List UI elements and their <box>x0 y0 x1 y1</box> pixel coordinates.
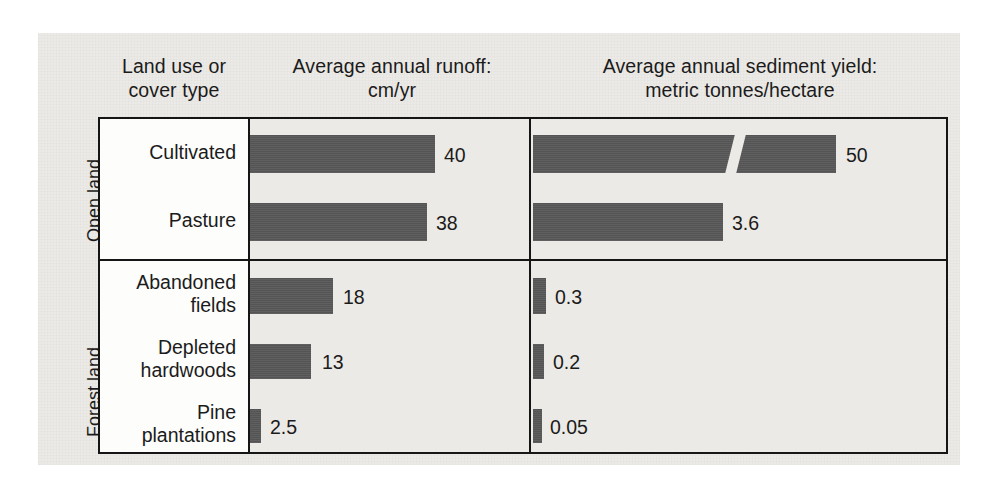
column-header-runoff-line1: Average annual runoff: <box>293 55 492 77</box>
row-label-line2: hardwoods <box>141 359 236 381</box>
column-header-sediment-line1: Average annual sediment yield: <box>603 55 878 77</box>
table-row: Pineplantations 2.5 0.05 <box>100 392 946 454</box>
column-header-sediment-line2: metric tonnes/hectare <box>645 79 835 101</box>
table-row: Cultivated 40 50 <box>100 119 946 189</box>
column-header-land-use-line1: Land use or <box>122 55 226 77</box>
column-header-sediment: Average annual sediment yield:metric ton… <box>530 54 950 102</box>
row-label-line2: plantations <box>142 424 236 446</box>
bar-value-runoff-pine-plantations: 2.5 <box>270 417 297 437</box>
column-header-runoff-line2: cm/yr <box>368 79 416 101</box>
bar-sediment-cultivated <box>533 135 836 173</box>
row-label-line1: Pine <box>197 401 236 423</box>
row-label-cultivated: Cultivated <box>100 141 236 164</box>
bar-value-runoff-cultivated: 40 <box>444 145 466 165</box>
chart-table-frame: Cultivated 40 50 Pasture 38 3.6 Abandone… <box>98 117 948 454</box>
bar-sediment-pine-plantations <box>533 409 542 443</box>
row-label-line1: Abandoned <box>136 271 236 293</box>
bar-runoff-abandoned-fields <box>250 278 333 314</box>
row-label-pine-plantations: Pineplantations <box>100 401 236 447</box>
bar-value-runoff-pasture: 38 <box>436 213 458 233</box>
bar-value-sediment-pine-plantations: 0.05 <box>550 417 588 437</box>
bar-value-runoff-abandoned-fields: 18 <box>343 287 365 307</box>
bar-sediment-abandoned-fields <box>533 278 546 314</box>
bar-runoff-pasture <box>250 203 427 241</box>
row-label-text: Cultivated <box>149 141 236 163</box>
table-row: Depletedhardwoods 13 0.2 <box>100 328 946 392</box>
bar-sediment-pasture <box>533 203 723 241</box>
column-header-land-use-line2: cover type <box>129 79 220 101</box>
table-row: Abandonedfields 18 0.3 <box>100 261 946 328</box>
column-header-runoff: Average annual runoff:cm/yr <box>252 54 532 102</box>
figure-root: Land use orcover type Average annual run… <box>0 0 998 493</box>
row-label-abandoned-fields: Abandonedfields <box>100 271 236 317</box>
row-label-depleted-hardwoods: Depletedhardwoods <box>100 336 236 382</box>
bar-runoff-depleted-hardwoods <box>250 344 311 379</box>
bar-value-sediment-cultivated: 50 <box>846 145 868 165</box>
bar-value-sediment-depleted-hardwoods: 0.2 <box>553 352 580 372</box>
bar-sediment-depleted-hardwoods <box>533 344 544 379</box>
bar-runoff-pine-plantations <box>250 409 261 443</box>
bar-value-runoff-depleted-hardwoods: 13 <box>322 352 344 372</box>
row-label-line2: fields <box>190 294 236 316</box>
row-label-text: Pasture <box>169 209 236 231</box>
row-label-pasture: Pasture <box>100 209 236 232</box>
bar-value-sediment-pasture: 3.6 <box>732 213 759 233</box>
bar-value-sediment-abandoned-fields: 0.3 <box>555 287 582 307</box>
column-header-land-use: Land use orcover type <box>100 54 248 102</box>
table-row: Pasture 38 3.6 <box>100 189 946 259</box>
row-label-line1: Depleted <box>158 336 236 358</box>
bar-runoff-cultivated <box>250 135 435 173</box>
